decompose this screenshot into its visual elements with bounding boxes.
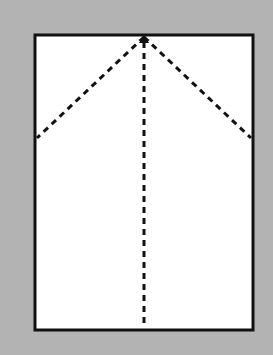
origami-diagram	[0, 0, 273, 355]
fold-diagram-canvas	[0, 0, 273, 355]
